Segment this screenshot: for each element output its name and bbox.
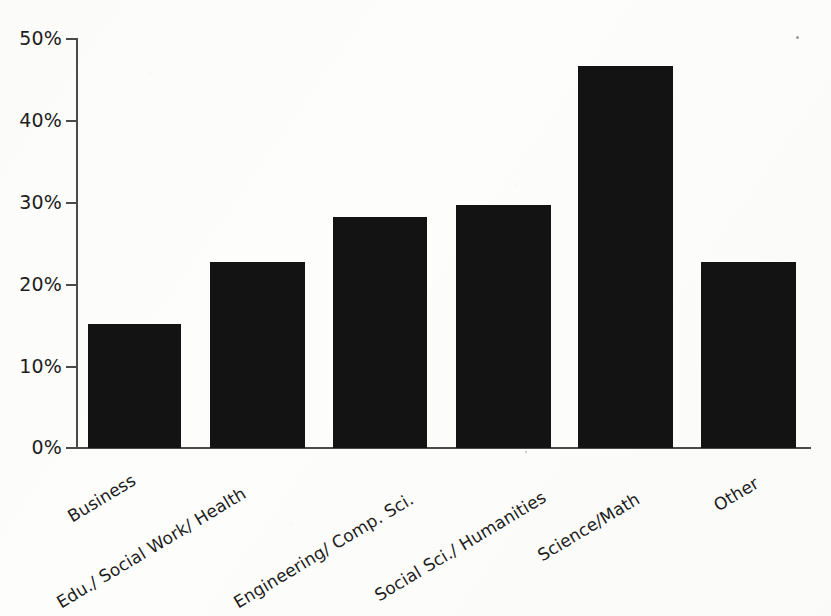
bar-other[interactable] [701, 262, 796, 448]
y-axis-label-50: 50% [4, 27, 62, 49]
y-axis-label-40: 40% [4, 109, 62, 131]
x-axis-label-science-math: Science/Math [534, 489, 643, 566]
bar-social-humanities[interactable] [456, 205, 551, 448]
y-axis-tick [66, 120, 77, 122]
bar-edu-social-health[interactable] [210, 262, 305, 448]
y-axis-tick [66, 202, 77, 204]
y-axis-label-20: 20% [4, 273, 62, 295]
y-axis-label-0: 0% [4, 436, 62, 458]
y-axis-label-30: 30% [4, 191, 62, 213]
bar-engineering-compsci[interactable] [333, 217, 427, 448]
chart-page: 50% 40% 30% 20% 10% 0% [0, 0, 831, 616]
bar-science-math[interactable] [578, 66, 673, 448]
y-axis-tick [66, 284, 77, 286]
y-axis-tick [66, 366, 77, 368]
bar-business[interactable] [88, 324, 181, 448]
x-axis-label-other: Other [710, 473, 762, 515]
y-axis-line [76, 38, 78, 449]
y-axis-label-10: 10% [4, 355, 62, 377]
scan-speck [796, 36, 799, 39]
bar-chart: 50% 40% 30% 20% 10% 0% [0, 0, 831, 616]
scan-speck [525, 451, 527, 453]
y-axis-tick [66, 38, 77, 40]
x-axis-label-business: Business [64, 470, 139, 526]
